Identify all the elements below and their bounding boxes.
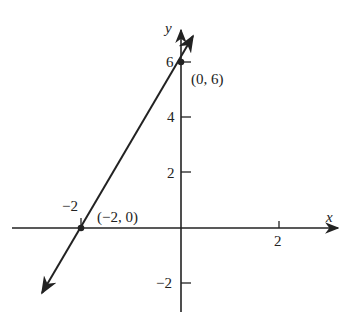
y-tick-label-6: 6 — [166, 54, 174, 70]
y-tick-label-neg2: −2 — [156, 275, 172, 291]
y-tick-label-4: 4 — [167, 109, 175, 125]
point-label-x-intercept: (−2, 0) — [97, 209, 138, 226]
point-y-intercept — [178, 59, 185, 66]
point-x-intercept — [78, 225, 85, 232]
y-tick-label-2: 2 — [167, 165, 175, 181]
line-graph: x y 2 −2 6 4 2 −2 (−2, 0) (0, 6) — [0, 0, 357, 319]
y-axis-label: y — [163, 20, 172, 36]
point-label-y-intercept: (0, 6) — [191, 71, 224, 88]
x-axis-label: x — [325, 209, 333, 225]
x-tick-label-2: 2 — [274, 233, 282, 249]
x-tick-label-neg2: −2 — [62, 198, 78, 214]
